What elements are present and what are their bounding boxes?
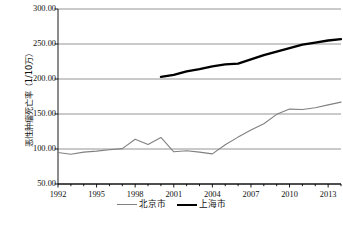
plot-area [0,0,343,229]
line-chart: 恶性肿瘤死亡率（1/10万） 50.00100.00150.00200.0025… [0,0,343,229]
axis-tickmarks [55,9,342,188]
gridlines [58,9,341,184]
legend-item: 上海市 [177,200,226,209]
legend-label: 上海市 [199,200,226,209]
legend-item: 北京市 [117,200,166,209]
series-line-上海市 [161,39,341,77]
axis-lines [58,9,341,184]
data-series [58,39,341,154]
chart-legend: 北京市上海市 [0,200,343,209]
legend-line-icon [117,204,137,205]
legend-label: 北京市 [139,200,166,209]
legend-line-icon [177,204,197,206]
series-line-北京市 [58,102,341,154]
